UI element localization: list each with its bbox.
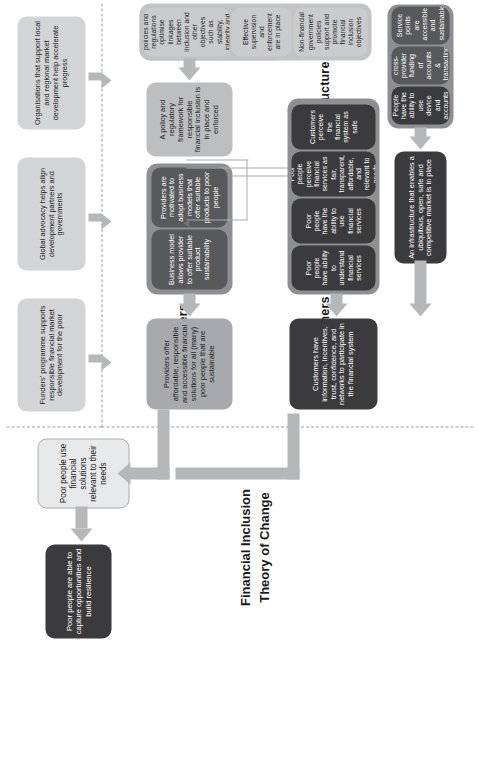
policy-stack-box-1: Financial sector policies and regulation…	[143, 7, 229, 56]
infrastructure-box-1: People have the ability to use device an…	[391, 86, 449, 124]
providers-box-1: Business model allows provider to offer …	[151, 229, 227, 289]
influence-box-3: Organisations that support local and reg…	[17, 16, 85, 129]
policy-stack-box-3: Non-financial government policies suppor…	[293, 7, 367, 56]
diagram-canvas: Financial Inclusion Theory of Change Inf…	[0, 0, 479, 760]
infrastructure-box-2: Interoperability allows cross-provider f…	[391, 46, 449, 84]
policy-headline-box: A policy and regulatory framework for re…	[146, 82, 232, 156]
customers-box-3: Poor people perceive financial services …	[291, 151, 375, 196]
separator-vertical-influence	[6, 426, 101, 427]
influence-box-2: Global advocacy helps align development …	[17, 157, 85, 270]
rotated-diagram-stage: Financial Inclusion Theory of Change Inf…	[0, 0, 479, 760]
infrastructure-headline: An infrastructure that enables a ubiquit…	[394, 151, 446, 263]
customers-headline-box: Customers have information, incentives, …	[289, 318, 377, 409]
customers-box-4: Customers perceive the financial system …	[291, 104, 375, 149]
influence-box-1: Funders' programme supports responsible …	[17, 298, 85, 411]
customers-box-2: Poor people have the ability to use fina…	[291, 198, 375, 243]
providers-box-2: Providers are motivated to adopt busines…	[151, 167, 227, 227]
customers-box-1: Poor people have ability to understand f…	[291, 245, 375, 290]
policy-stack-box-2: Effective supervision and enforcement ar…	[231, 7, 291, 56]
impact-box: Poor people are able to capture opportun…	[45, 544, 111, 638]
infrastructure-box-3: Service points are accessible and sustai…	[391, 6, 449, 44]
providers-headline-box: Providers offer affordable, responsible …	[146, 318, 232, 409]
outcome-box: Poor people use financial solutions rele…	[37, 438, 129, 508]
